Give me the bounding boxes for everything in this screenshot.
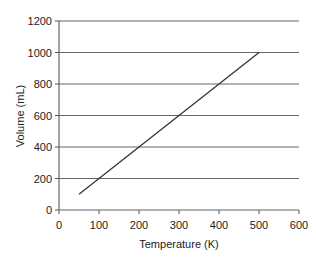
data-series bbox=[79, 53, 259, 195]
y-axis-label: Volume (mL) bbox=[14, 85, 26, 147]
chart: 020040060080010001200 010020030040050060… bbox=[0, 0, 316, 260]
y-tick-label: 600 bbox=[34, 110, 52, 122]
x-tick-label: 600 bbox=[290, 219, 308, 231]
y-tick-label: 800 bbox=[34, 78, 52, 90]
y-tick-label: 200 bbox=[34, 173, 52, 185]
x-tick-label: 300 bbox=[170, 219, 188, 231]
y-tick-label: 400 bbox=[34, 141, 52, 153]
y-tick-label: 1000 bbox=[28, 47, 52, 59]
series-line bbox=[79, 53, 259, 195]
y-tick-label: 0 bbox=[46, 204, 52, 216]
x-tick-label: 100 bbox=[90, 219, 108, 231]
gridlines bbox=[59, 21, 299, 179]
y-tick-labels: 020040060080010001200 bbox=[28, 15, 52, 216]
x-tick-label: 0 bbox=[56, 219, 62, 231]
x-axis-label: Temperature (K) bbox=[139, 238, 218, 250]
y-tick-label: 1200 bbox=[28, 15, 52, 27]
x-tick-label: 400 bbox=[210, 219, 228, 231]
x-tick-labels: 0100200300400500600 bbox=[56, 219, 308, 231]
x-tick-label: 200 bbox=[130, 219, 148, 231]
x-tick-label: 500 bbox=[250, 219, 268, 231]
